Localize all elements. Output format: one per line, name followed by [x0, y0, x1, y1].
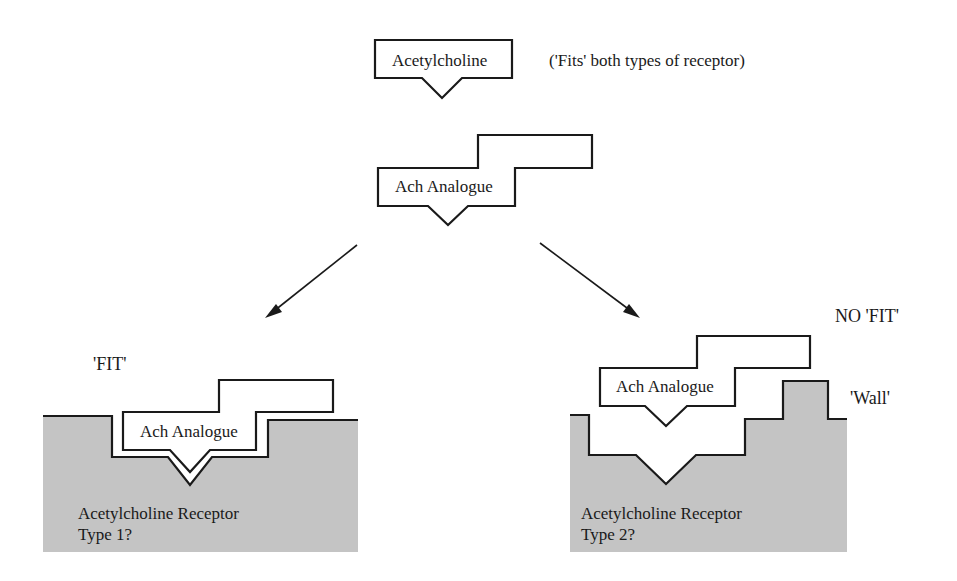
- ach-analogue-shape-nofit: Ach Analogue: [600, 336, 810, 426]
- ach-analogue-label-nofit: Ach Analogue: [616, 377, 714, 396]
- fits-both-note: ('Fits' both types of receptor): [549, 51, 745, 70]
- no-fit-status-label: NO 'FIT': [835, 306, 899, 326]
- receptor-fit-diagram: Acetylcholine ('Fits' both types of rece…: [0, 0, 957, 581]
- receptor-type2-label-line1: Acetylcholine Receptor: [581, 504, 742, 523]
- arrow-to-type1: [265, 245, 357, 318]
- acetylcholine-shape: Acetylcholine: [375, 40, 512, 98]
- receptor-type2-label-line2: Type 2?: [581, 525, 635, 544]
- wall-label: 'Wall': [850, 388, 890, 408]
- ach-analogue-shape-top: Ach Analogue: [378, 135, 592, 225]
- receptor-type1-label-line1: Acetylcholine Receptor: [78, 504, 239, 523]
- acetylcholine-label: Acetylcholine: [392, 51, 487, 70]
- arrow-to-type2: [540, 243, 640, 318]
- ach-analogue-label-top: Ach Analogue: [395, 177, 493, 196]
- ach-analogue-label-fit: Ach Analogue: [140, 422, 238, 441]
- receptor-type1-label-line2: Type 1?: [78, 525, 132, 544]
- wall-feature: 'Wall': [850, 388, 890, 408]
- fit-status-label: 'FIT': [93, 354, 127, 374]
